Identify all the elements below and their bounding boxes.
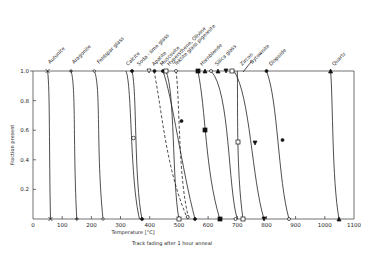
- curve-silica: [211, 71, 237, 219]
- marker-tektite: [175, 70, 178, 73]
- marker-zircon: [241, 217, 245, 221]
- curve-labels: Autunite Aragonite Feldspar glass Calcit…: [46, 23, 346, 68]
- curve-sodalime: [126, 71, 140, 219]
- y-tick-0.4: 0.4: [20, 157, 29, 163]
- y-tick-0.6: 0.6: [20, 127, 29, 133]
- marker-aragonite-plus: [69, 69, 79, 221]
- curve-tektite: [176, 71, 189, 219]
- x-tick-900: 900: [290, 222, 301, 228]
- curve-autunite: [48, 71, 51, 219]
- marker-muscovite: [177, 217, 181, 221]
- label-quartz: Quartz: [330, 50, 346, 66]
- marker-silica-open: [234, 218, 237, 221]
- marker-feldspar: [93, 70, 95, 72]
- marker-hypersthene: [194, 218, 197, 221]
- marker-apatite: [153, 70, 156, 73]
- marker-hornblende: [218, 217, 222, 221]
- label-diopside: Diopside: [267, 47, 287, 67]
- marker-diopside: [265, 70, 268, 73]
- marker-zircon: [230, 69, 234, 73]
- x-tick-0: 0: [31, 222, 35, 228]
- curve-calcite: [132, 71, 142, 219]
- marker-hornblende: [196, 69, 200, 73]
- y-tick-1.0: 1.0: [20, 68, 29, 74]
- marker-muscovite: [164, 69, 168, 73]
- marker-zircon: [236, 140, 240, 144]
- x-tick-600: 600: [203, 222, 214, 228]
- label-feldspar: Feldspar glass: [95, 35, 125, 65]
- marker-calcite: [131, 70, 134, 73]
- x-tick-1100: 1100: [347, 222, 361, 228]
- y-tick-0.2: 0.2: [20, 186, 29, 192]
- marker-feldspar: [102, 218, 104, 220]
- marker-tektite: [186, 216, 189, 219]
- curve-quartz: [331, 71, 339, 219]
- marker-calcite: [141, 218, 144, 221]
- curve-aragonite: [71, 71, 77, 219]
- curve-apatite: [154, 71, 188, 219]
- marker-hornblende: [203, 128, 207, 132]
- curve-bytownite: [234, 71, 264, 219]
- label-tektite-glass-pigeonite: Tektite glass pigeonite: [172, 23, 217, 68]
- marker-bytownite: [253, 141, 257, 145]
- y-axis-label: Fraction present: [9, 125, 16, 166]
- y-tick-0.8: 0.8: [20, 98, 29, 104]
- plot-frame: [33, 71, 354, 219]
- y-tick-labels: 1.0 0.8 0.6 0.4 0.2: [20, 68, 29, 192]
- marker-diopside: [281, 139, 284, 142]
- track-fading-chart: 1.0 0.8 0.6 0.4 0.2 Fraction present 0 1…: [0, 0, 372, 258]
- label-aragonite: Aragonite: [70, 43, 92, 65]
- x-tick-400: 400: [144, 222, 155, 228]
- x-tick-labels: 0 100 200 300 400 500 600 700 800 900 10…: [31, 222, 361, 228]
- curve-diopside: [267, 71, 290, 219]
- x-tick-800: 800: [261, 222, 272, 228]
- marker-sodalime: [132, 136, 136, 140]
- x-tick-700: 700: [232, 222, 243, 228]
- x-tick-200: 200: [86, 222, 97, 228]
- x-tick-100: 100: [57, 222, 68, 228]
- x-axis-label: Temperature [°C]: [110, 229, 154, 236]
- chart-caption: Track fading after 1 hour anneal: [131, 240, 212, 247]
- curve-feldspar: [94, 71, 103, 219]
- markers: [46, 69, 341, 221]
- marker-diopside: [288, 218, 291, 221]
- marker-silica-open: [210, 70, 213, 73]
- x-tick-500: 500: [174, 222, 185, 228]
- x-tick-1000: 1000: [318, 222, 332, 228]
- curves: [48, 62, 339, 219]
- marker-hypersthene-mid: [180, 120, 183, 123]
- x-tick-300: 300: [115, 222, 126, 228]
- curve-muscovite: [166, 71, 179, 219]
- curve-hypersthene: [163, 71, 195, 219]
- label-autunite: Autunite: [46, 45, 65, 64]
- curve-hornblende: [198, 71, 220, 219]
